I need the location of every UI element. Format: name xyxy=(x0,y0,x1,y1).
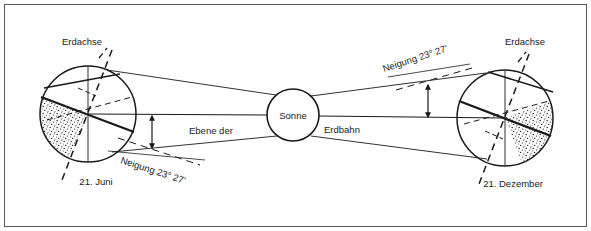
date-left-label: 21. Juni xyxy=(79,176,112,187)
diagram-canvas: Sonne xyxy=(0,0,591,231)
earth-right-terminator-chord xyxy=(488,72,553,92)
erdachse-left-label: Erdachse xyxy=(62,36,102,47)
orbit-plane-label-part2: Erdbahn xyxy=(324,124,360,135)
earth-left-axis-tick xyxy=(78,88,96,96)
night-side-stipple-left xyxy=(20,60,88,180)
orbit-plane-label-part1: Ebene der xyxy=(189,125,233,136)
erdachse-right-leader xyxy=(518,52,526,62)
tilt-left-label: Neigung 23° 27' xyxy=(119,154,187,185)
earth-left-terminator-chord xyxy=(44,74,120,88)
axis-label-leaders xyxy=(99,48,526,62)
ray-left-lower xyxy=(112,136,277,152)
erdachse-right-label: Erdachse xyxy=(505,36,545,47)
orbit-line-left-segment xyxy=(88,114,267,115)
tilt-right-guide-dashed xyxy=(396,68,472,90)
sun-body: Sonne xyxy=(267,89,319,141)
earth-right-axis-tick xyxy=(485,131,503,139)
orbit-line-right-segment xyxy=(319,116,505,118)
date-right-label: 21. Dezember xyxy=(483,178,543,189)
ray-right-lower xyxy=(311,136,487,159)
erdachse-left-leader xyxy=(99,48,107,58)
ray-right-upper xyxy=(311,73,486,96)
ray-left-upper xyxy=(107,70,276,95)
earth-axial-tilt-diagram: Sonne xyxy=(0,0,591,231)
earth-winter-solstice xyxy=(457,54,575,184)
sun-label: Sonne xyxy=(279,110,306,121)
earth-summer-solstice xyxy=(20,50,136,180)
